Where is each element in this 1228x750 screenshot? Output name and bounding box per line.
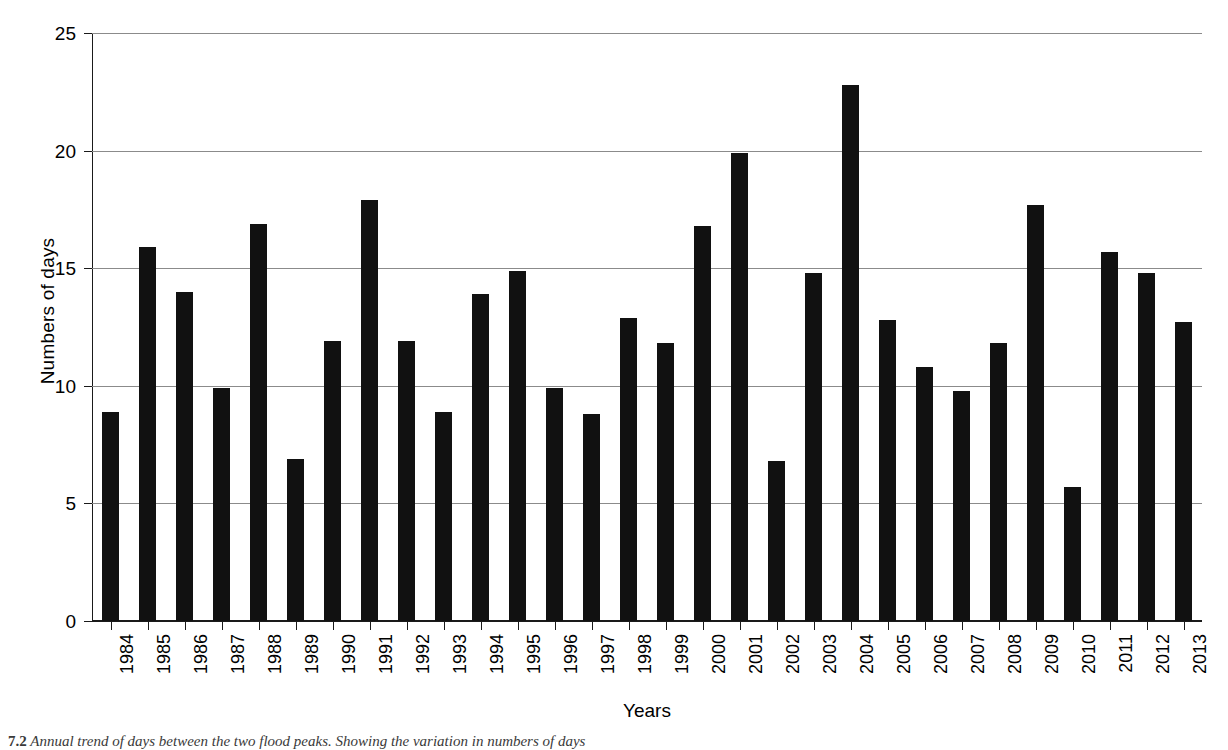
x-tick-mark (555, 621, 556, 630)
bar[interactable] (361, 200, 378, 621)
bar[interactable] (953, 391, 970, 621)
bar-slot (573, 33, 610, 621)
x-label-slot: 2010 (1054, 634, 1091, 700)
x-label-slot: 2006 (906, 634, 943, 700)
bar[interactable] (435, 412, 452, 621)
bar-slot (462, 33, 499, 621)
bar[interactable] (102, 412, 119, 621)
x-label-slot: 1995 (499, 634, 536, 700)
x-tick-mark (851, 621, 852, 630)
bar[interactable] (324, 341, 341, 621)
bar[interactable] (287, 459, 304, 621)
bar[interactable] (213, 388, 230, 621)
bar[interactable] (1064, 487, 1081, 621)
bar-slot (92, 33, 129, 621)
bar[interactable] (694, 226, 711, 621)
bar-slot (1091, 33, 1128, 621)
figure-caption-number: 7.2 (8, 733, 27, 749)
bar[interactable] (768, 461, 785, 621)
x-label-slot: 2009 (1017, 634, 1054, 700)
bar-slot (906, 33, 943, 621)
figure-caption: 7.2 Annual trend of days between the two… (8, 733, 1218, 750)
x-tick-mark (370, 621, 371, 630)
x-label-slot: 1984 (92, 634, 129, 700)
bar[interactable] (1101, 252, 1118, 621)
x-tick-slot (980, 621, 1017, 633)
bar[interactable] (842, 85, 859, 621)
x-tick-slot (240, 621, 277, 633)
bar[interactable] (546, 388, 563, 621)
bar[interactable] (731, 153, 748, 621)
y-tick-label: 10 (36, 376, 76, 395)
x-tick-mark (925, 621, 926, 630)
x-label-slot: 1990 (314, 634, 351, 700)
bar[interactable] (250, 224, 267, 621)
bar[interactable] (1138, 273, 1155, 621)
x-label-slot: 2011 (1091, 634, 1128, 700)
bar[interactable] (472, 294, 489, 621)
bar-slot (129, 33, 166, 621)
x-tick-mark (1147, 621, 1148, 630)
bar-slot (721, 33, 758, 621)
x-tick-mark (222, 621, 223, 630)
bar-slot (499, 33, 536, 621)
x-tick-mark (962, 621, 963, 630)
bar[interactable] (990, 343, 1007, 621)
x-tick-mark (148, 621, 149, 630)
bar-slot (1054, 33, 1091, 621)
x-label-slot: 1994 (462, 634, 499, 700)
x-tick-slot (388, 621, 425, 633)
bar[interactable] (509, 271, 526, 621)
x-tick-mark (666, 621, 667, 630)
bar[interactable] (583, 414, 600, 621)
x-axis-title: Years (92, 700, 1202, 722)
x-tick-slot (832, 621, 869, 633)
plot-area (92, 33, 1202, 621)
x-tick-slot (536, 621, 573, 633)
bar[interactable] (620, 318, 637, 621)
bar-slot (351, 33, 388, 621)
bar-slot (536, 33, 573, 621)
bar-slot (647, 33, 684, 621)
x-tick-slot (1128, 621, 1165, 633)
bar[interactable] (1027, 205, 1044, 621)
bar[interactable] (398, 341, 415, 621)
x-label-slot: 2004 (832, 634, 869, 700)
x-tick-slot (943, 621, 980, 633)
y-tick-label: 20 (36, 141, 76, 160)
x-tick-mark (999, 621, 1000, 630)
bar[interactable] (176, 292, 193, 621)
bar-slot (795, 33, 832, 621)
y-tick-label: 5 (36, 494, 76, 513)
x-tick-mark (777, 621, 778, 630)
x-label-slot: 1989 (277, 634, 314, 700)
x-label-slot: 1988 (240, 634, 277, 700)
x-tick-mark (592, 621, 593, 630)
bar[interactable] (139, 247, 156, 621)
x-label-slot: 1996 (536, 634, 573, 700)
bar[interactable] (879, 320, 896, 621)
x-label-slot: 1986 (166, 634, 203, 700)
x-tick-mark (518, 621, 519, 630)
x-tick-mark (296, 621, 297, 630)
bar-slot (980, 33, 1017, 621)
bar-slot (758, 33, 795, 621)
bar[interactable] (805, 273, 822, 621)
x-tick-mark (481, 621, 482, 630)
bar-slot (240, 33, 277, 621)
bar-slot (1165, 33, 1202, 621)
x-tick-slot (869, 621, 906, 633)
x-label-slot: 2005 (869, 634, 906, 700)
bar-slot (684, 33, 721, 621)
x-tick-slot (499, 621, 536, 633)
bar-slot (1017, 33, 1054, 621)
bar[interactable] (916, 367, 933, 621)
x-tick-mark (1184, 621, 1185, 630)
x-tick-slot (203, 621, 240, 633)
bar[interactable] (657, 343, 674, 621)
bar[interactable] (1175, 322, 1192, 621)
bar-slot (277, 33, 314, 621)
x-tick-mark (1036, 621, 1037, 630)
x-tick-mark (740, 621, 741, 630)
x-tick-mark (703, 621, 704, 630)
